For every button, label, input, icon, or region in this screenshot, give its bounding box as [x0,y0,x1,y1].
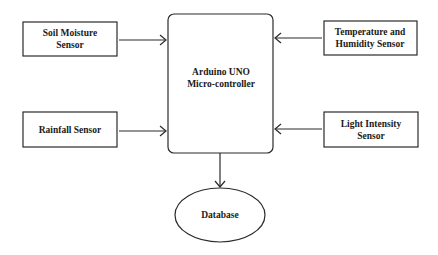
label-light-line1: Light Intensity [341,119,402,129]
edge-light-to-arduino [275,124,322,134]
label-light-line2: Sensor [357,131,385,141]
node-light-intensity-sensor [324,112,418,147]
edge-arduino-to-database [215,153,225,187]
block-diagram: Soil Moisture Sensor Temperature and Hum… [0,0,438,255]
edge-soil-to-arduino [119,35,166,45]
label-arduino-line1: Arduino UNO [192,67,250,77]
label-soil-line1: Soil Moisture [43,28,97,38]
diagram-svg: Soil Moisture Sensor Temperature and Hum… [0,0,438,255]
label-arduino-line2: Micro-controller [187,79,255,89]
label-temp-line2: Humidity Sensor [336,39,406,49]
edge-rain-to-arduino [119,126,166,136]
label-temp-line1: Temperature and [335,27,406,37]
label-rain: Rainfall Sensor [39,125,102,135]
edge-temp-to-arduino [275,33,322,43]
label-soil-line2: Sensor [56,40,84,50]
label-database: Database [201,210,238,220]
